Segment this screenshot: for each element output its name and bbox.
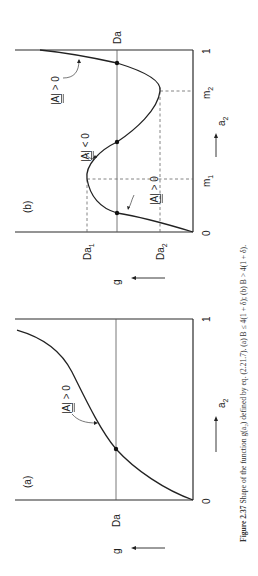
panel-a-xlabel: a2 <box>216 398 229 408</box>
panel-b-point-2 <box>115 140 119 144</box>
panel-b-ann3-text: |A| > 0 <box>50 76 61 105</box>
figure-caption: Figure 2.37 Shape of the function g(a₂) … <box>239 245 248 542</box>
panel-a-ylabel: g <box>111 548 122 554</box>
panel-b-title: (b) <box>22 201 33 213</box>
panel-a-tick-1: 1 <box>201 316 212 322</box>
figure-canvas: (b) |A| > 0 |A| < 0 |A| > 0 0 m1 m2 1 a2… <box>0 0 258 576</box>
panel-b-label-da2: Da2 <box>155 243 168 260</box>
panel-b-point-1 <box>115 211 119 215</box>
panel-a-ann-text: |A| > 0 <box>61 385 72 414</box>
panel-a: |A| > 0 (a) 0 1 a2 Da g <box>15 316 229 554</box>
panel-b-tick-1: 1 <box>201 48 212 54</box>
panel-b-label-da1: Da1 <box>82 243 95 260</box>
panel-b-a2-arrowhead-icon <box>214 133 218 138</box>
panel-b-g-arrowhead-icon <box>131 276 136 280</box>
panel-a-ann-arrow <box>72 414 96 423</box>
panel-a-title: (a) <box>22 476 33 488</box>
panel-b-tick-0: 0 <box>201 230 212 236</box>
panel-b-ann2: |A| < 0 <box>80 133 93 162</box>
panel-a-label-da: Da <box>111 514 122 527</box>
panel-a-g-arrowhead-icon <box>131 546 136 550</box>
panel-b-ann3: |A| > 0 <box>50 76 63 105</box>
panel-b-point-3 <box>115 61 119 65</box>
panel-b: (b) |A| > 0 |A| < 0 |A| > 0 0 m1 m2 1 a2… <box>15 31 229 285</box>
panel-a-tick-0: 0 <box>201 498 212 504</box>
panel-b-ann2-text: |A| < 0 <box>80 133 91 162</box>
panel-b-label-da: Da <box>112 31 123 44</box>
panel-b-ann1-text: |A| > 0 <box>149 176 160 205</box>
panel-a-curve <box>17 330 193 500</box>
panel-b-tick-m2: m2 <box>201 87 214 99</box>
panel-b-ann3-arrowhead-icon <box>77 59 81 63</box>
panel-a-ann: |A| > 0 <box>61 385 74 414</box>
panel-b-xlabel: a2 <box>216 116 229 126</box>
panel-b-tick-m1: m1 <box>201 175 214 187</box>
panel-b-ann3-arrow <box>63 60 79 78</box>
panel-a-a2-arrowhead-icon <box>214 416 218 421</box>
panel-b-ylabel: g <box>111 279 122 285</box>
panel-a-point <box>114 447 118 451</box>
